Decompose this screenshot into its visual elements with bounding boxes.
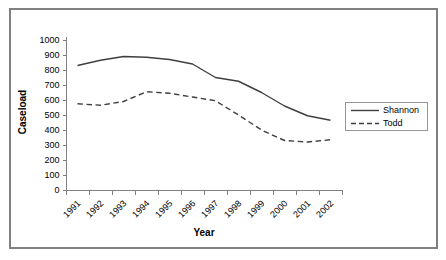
x-tick-label: 1997 bbox=[199, 198, 220, 219]
x-tick-label: 1999 bbox=[245, 198, 266, 219]
y-tick-label: 700 bbox=[44, 80, 59, 90]
y-axis-title-text: Caseload bbox=[17, 90, 28, 134]
x-axis-title: Year bbox=[66, 227, 342, 238]
y-tick-label: 0 bbox=[54, 185, 59, 195]
y-tick-label: 1000 bbox=[39, 35, 59, 45]
series-line-shannon bbox=[78, 57, 331, 121]
x-tick-label: 1996 bbox=[176, 198, 197, 219]
x-tick-label: 1995 bbox=[153, 198, 174, 219]
y-tick-label: 300 bbox=[44, 140, 59, 150]
chart-page: 0100200300400500600700800900100019911992… bbox=[0, 0, 446, 260]
dashed-line-swatch-icon bbox=[350, 119, 380, 128]
y-tick-label: 400 bbox=[44, 125, 59, 135]
x-tick-label: 1994 bbox=[130, 198, 151, 219]
y-tick-label: 800 bbox=[44, 65, 59, 75]
x-tick-label: 2001 bbox=[291, 198, 312, 219]
solid-line-swatch-icon bbox=[350, 106, 380, 115]
x-tick-label: 1998 bbox=[222, 198, 243, 219]
y-tick-label: 900 bbox=[44, 50, 59, 60]
x-tick-label: 1993 bbox=[107, 198, 128, 219]
legend-item-todd: Todd bbox=[350, 117, 427, 129]
x-tick-label: 2002 bbox=[314, 198, 335, 219]
y-tick-label: 100 bbox=[44, 170, 59, 180]
legend-item-shannon: Shannon bbox=[350, 104, 427, 116]
legend-label-todd: Todd bbox=[383, 119, 403, 128]
y-tick-label: 600 bbox=[44, 95, 59, 105]
legend-label-shannon: Shannon bbox=[383, 106, 419, 115]
x-tick-label: 2000 bbox=[268, 198, 289, 219]
series-line-todd bbox=[78, 92, 331, 142]
x-tick-label: 1992 bbox=[84, 198, 105, 219]
legend: Shannon Todd bbox=[345, 102, 428, 131]
y-tick-label: 200 bbox=[44, 155, 59, 165]
y-tick-label: 500 bbox=[44, 110, 59, 120]
x-tick-label: 1991 bbox=[61, 198, 82, 219]
